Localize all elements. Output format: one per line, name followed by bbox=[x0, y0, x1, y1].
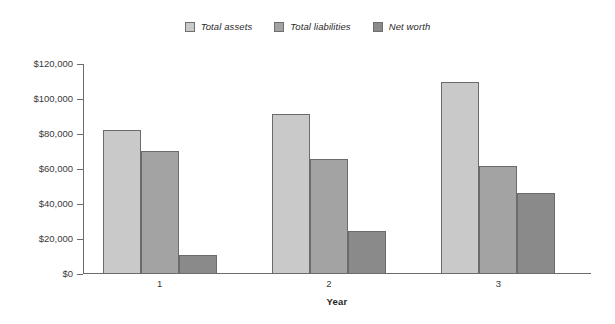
bar-group bbox=[441, 64, 555, 274]
y-axis-tick: $0 bbox=[77, 274, 83, 275]
x-axis-label: 3 bbox=[496, 278, 501, 289]
legend-label-total-liabilities: Total liabilities bbox=[290, 21, 351, 32]
legend-item-total-liabilities: Total liabilities bbox=[274, 21, 351, 32]
x-axis-title: Year bbox=[83, 296, 591, 307]
x-axis-label: 1 bbox=[157, 278, 162, 289]
bar-group bbox=[103, 64, 217, 274]
bar-groups bbox=[83, 64, 591, 274]
legend-label-total-assets: Total assets bbox=[201, 21, 253, 32]
bar[interactable] bbox=[179, 255, 217, 274]
bar[interactable] bbox=[479, 166, 517, 275]
y-axis-tick-label: $20,000 bbox=[39, 233, 73, 244]
y-axis-tick-label: $40,000 bbox=[39, 198, 73, 209]
x-axis-label: 2 bbox=[326, 278, 331, 289]
bar[interactable] bbox=[310, 159, 348, 275]
legend-swatch-net-worth bbox=[373, 22, 383, 32]
bar[interactable] bbox=[103, 130, 141, 274]
legend-label-net-worth: Net worth bbox=[389, 21, 431, 32]
bar[interactable] bbox=[272, 114, 310, 274]
y-axis-tick-label: $0 bbox=[62, 268, 73, 279]
y-axis-tick-label: $60,000 bbox=[39, 163, 73, 174]
legend-swatch-total-liabilities bbox=[274, 22, 284, 32]
y-axis-tick-label: $80,000 bbox=[39, 128, 73, 139]
bar[interactable] bbox=[441, 82, 479, 275]
y-axis-tick-label: $120,000 bbox=[33, 58, 73, 69]
y-axis-tick-label: $100,000 bbox=[33, 93, 73, 104]
legend-item-net-worth: Net worth bbox=[373, 21, 431, 32]
bar-group bbox=[272, 64, 386, 274]
bar-chart: Total assets Total liabilities Net worth… bbox=[0, 0, 615, 324]
chart-legend: Total assets Total liabilities Net worth bbox=[0, 21, 615, 32]
bar[interactable] bbox=[348, 231, 386, 274]
bar[interactable] bbox=[141, 151, 179, 274]
legend-swatch-total-assets bbox=[185, 22, 195, 32]
bar[interactable] bbox=[517, 193, 555, 274]
plot-area: $0$20,000$40,000$60,000$80,000$100,000$1… bbox=[83, 64, 591, 274]
legend-item-total-assets: Total assets bbox=[185, 21, 253, 32]
